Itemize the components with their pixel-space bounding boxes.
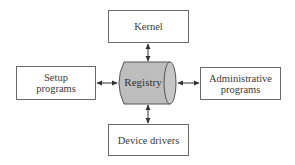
admin-label-line-1: Administrative <box>209 73 272 84</box>
admin-label-line-2: programs <box>221 84 261 95</box>
administrative-programs-box: Administrative programs <box>200 67 281 100</box>
setup-programs-box: Setup programs <box>16 66 96 100</box>
kernel-label: Kernel <box>134 21 163 32</box>
kernel-box: Kernel <box>108 10 189 43</box>
device-drivers-box: Device drivers <box>108 124 189 156</box>
setup-label-line-2: programs <box>36 83 76 94</box>
registry-label: Registry <box>118 76 168 89</box>
setup-label-line-1: Setup <box>44 72 68 83</box>
device-label: Device drivers <box>118 135 180 146</box>
registry-diagram: Registry Kernel Setup programs Administr… <box>0 0 295 165</box>
